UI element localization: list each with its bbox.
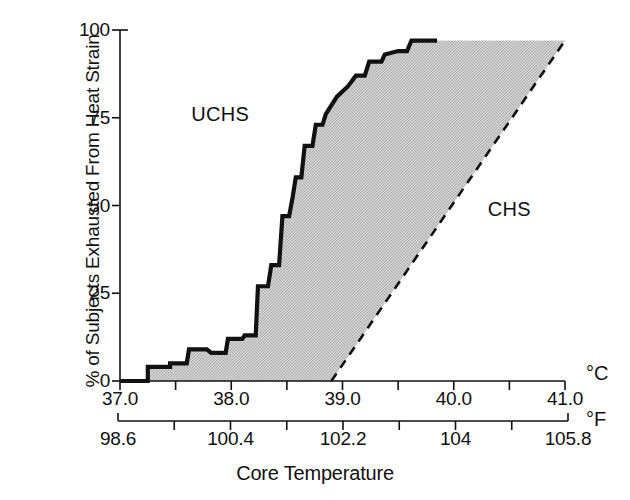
y-tick-label: 75 [52, 107, 110, 129]
y-tick-label: 50 [52, 195, 110, 217]
fahrenheit-tick-label: 102.2 [320, 428, 367, 450]
y-tick-label: 25 [52, 282, 110, 304]
fahrenheit-tick-label: 104 [440, 428, 471, 450]
celsius-tick-label: 40.0 [436, 388, 472, 410]
celsius-tick-label: 41.0 [547, 388, 583, 410]
fahrenheit-tick-label: 100.4 [207, 428, 254, 450]
y-tick-label: 100 [52, 19, 110, 41]
celsius-tick-label: 39.0 [324, 388, 360, 410]
region-label-uchs: UCHS [191, 103, 249, 126]
celsius-tick-label: 37.0 [102, 388, 138, 410]
region-label-chs: CHS [488, 198, 531, 221]
celsius-unit-label: °C [586, 362, 608, 385]
x-axis-title: Core Temperature [0, 462, 630, 485]
celsius-tick-label: 38.0 [213, 388, 249, 410]
chart-figure: % of Subjects Exhausted From Heat Strain… [0, 0, 630, 500]
fahrenheit-tick-label: 98.6 [100, 428, 136, 450]
fahrenheit-tick-label: 105.8 [545, 428, 592, 450]
